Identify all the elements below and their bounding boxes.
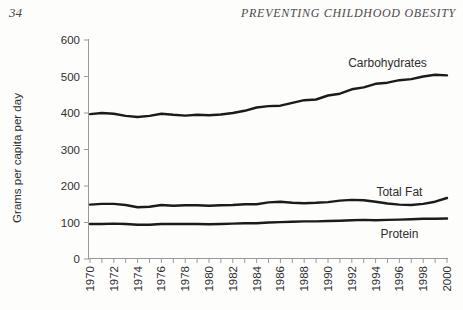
x-tick-label: 1982 (227, 266, 239, 292)
series-label-total-fat: Total Fat (376, 185, 423, 199)
y-tick-label: 200 (61, 180, 80, 192)
y-tick-label: 600 (61, 34, 80, 46)
x-tick-label: 1996 (393, 266, 405, 292)
series-line-carbohydrates (90, 75, 447, 117)
x-tick-label: 1994 (370, 265, 382, 291)
x-tick-label: 1970 (84, 266, 96, 292)
y-tick-label: 400 (61, 107, 80, 119)
x-tick-label: 2000 (441, 266, 453, 292)
y-tick-label: 500 (61, 71, 80, 83)
x-tick-label: 1988 (298, 266, 310, 292)
series-line-protein (90, 219, 447, 225)
x-tick-label: 1976 (155, 266, 167, 292)
y-tick-label: 0 (74, 253, 80, 265)
y-tick-label: 100 (61, 217, 80, 229)
y-tick-label: 300 (61, 144, 80, 156)
x-tick-label: 1980 (203, 266, 215, 292)
x-tick-label: 1998 (417, 266, 429, 292)
book-page: 34 PREVENTING CHILDHOOD OBESITY 01002003… (0, 0, 463, 310)
line-chart: 0100200300400500600Grams per capita per … (0, 0, 463, 310)
x-tick-label: 1974 (132, 265, 144, 291)
series-label-protein: Protein (380, 227, 418, 241)
series-label-carbohydrates: Carbohydrates (348, 56, 427, 70)
x-tick-label: 1990 (322, 266, 334, 292)
y-axis-title: Grams per capita per day (11, 93, 23, 223)
x-tick-label: 1972 (108, 266, 120, 292)
x-tick-label: 1984 (251, 265, 263, 291)
x-tick-label: 1986 (274, 266, 286, 292)
x-tick-label: 1992 (346, 266, 358, 292)
series-line-total-fat (90, 198, 447, 207)
x-tick-label: 1978 (179, 266, 191, 292)
